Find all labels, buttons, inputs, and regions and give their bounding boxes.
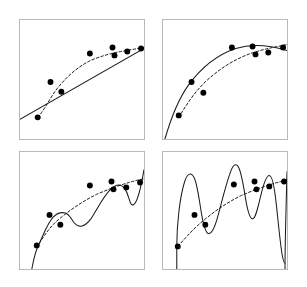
panel-4-datapoints <box>175 179 287 250</box>
panel-1-solid-fit-curve <box>20 49 144 120</box>
data-point <box>231 181 237 187</box>
data-point <box>112 52 118 58</box>
data-point <box>137 180 143 186</box>
data-point <box>35 114 41 120</box>
data-point <box>200 90 206 96</box>
panel-2-datapoints <box>176 44 286 119</box>
panel-4-solid-fit-right-tail <box>285 172 287 263</box>
data-point <box>175 243 181 249</box>
data-point <box>250 44 256 50</box>
data-point <box>252 179 258 185</box>
top-left-panel <box>19 19 145 140</box>
data-point <box>110 45 116 51</box>
data-point <box>202 222 208 228</box>
data-point <box>281 179 287 185</box>
top-right-panel <box>162 19 288 140</box>
data-point <box>48 79 54 85</box>
data-point <box>47 212 53 218</box>
data-point <box>253 51 259 57</box>
data-point <box>138 46 144 52</box>
data-point <box>123 184 129 190</box>
panel-3-plot <box>20 152 144 269</box>
data-point <box>34 242 40 248</box>
figure-container <box>0 0 307 287</box>
data-point <box>280 45 286 51</box>
data-point <box>58 89 64 95</box>
panel-1-plot <box>20 20 144 139</box>
data-point <box>111 186 117 192</box>
panel-4-plot <box>163 152 287 269</box>
data-point <box>87 182 93 188</box>
data-point <box>176 112 182 118</box>
data-point <box>57 222 63 228</box>
data-point <box>189 79 195 85</box>
data-point <box>229 45 235 51</box>
data-point <box>254 186 260 192</box>
data-point <box>265 50 271 56</box>
data-point <box>192 212 198 218</box>
data-point <box>266 183 272 189</box>
panel-3-datapoints <box>34 179 143 249</box>
bottom-left-panel <box>19 151 145 270</box>
panel-2-dashed-fit-curve <box>179 45 287 118</box>
panel-2-solid-fit-curve <box>165 45 287 139</box>
data-point <box>124 49 130 55</box>
panel-2-plot <box>163 20 287 139</box>
data-point <box>87 50 93 56</box>
bottom-right-panel <box>162 151 288 270</box>
panel-1-datapoints <box>35 45 144 121</box>
data-point <box>109 179 115 185</box>
